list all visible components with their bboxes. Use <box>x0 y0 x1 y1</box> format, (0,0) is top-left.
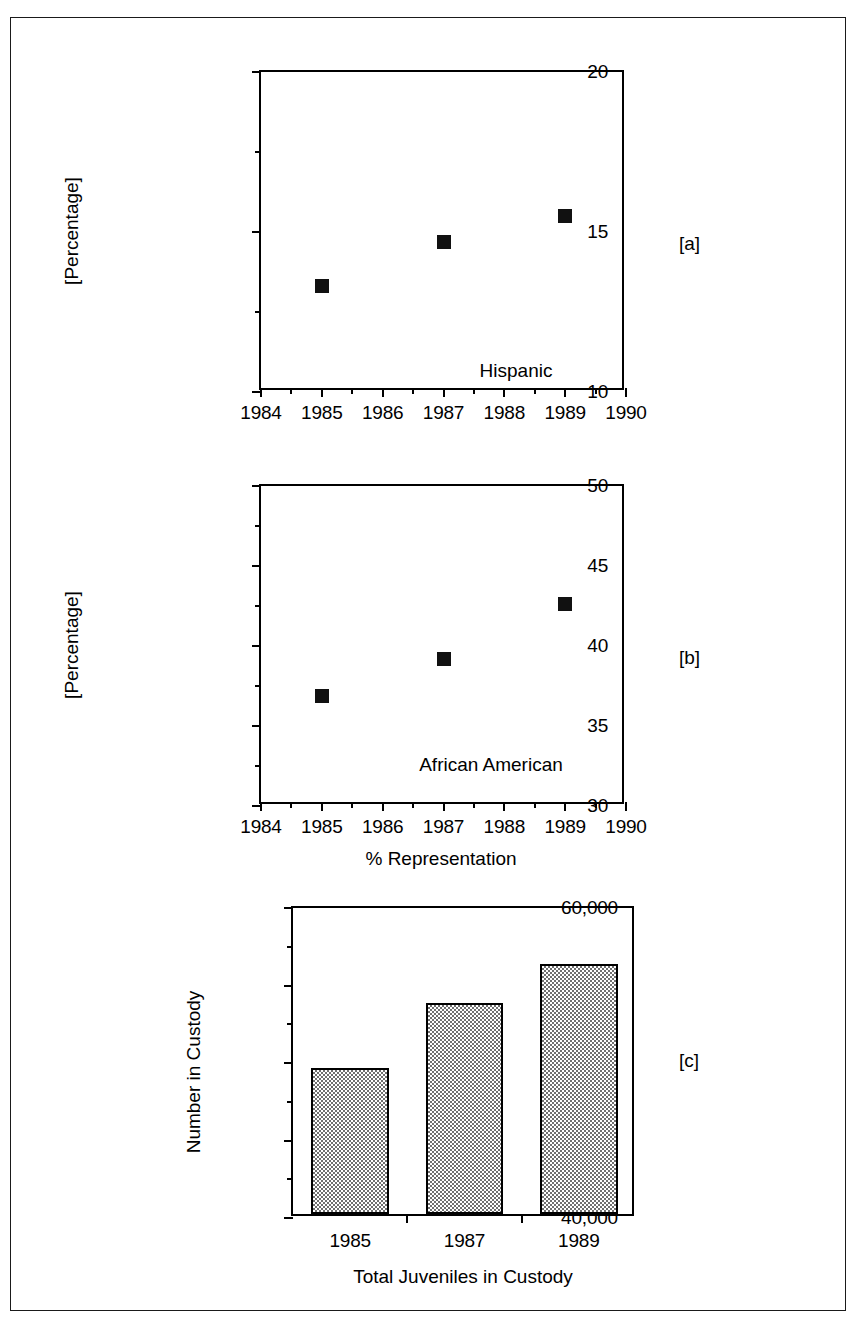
y-tick-label-a: 15 <box>587 221 608 243</box>
y-axis-title-b-text: [Percentage] <box>61 591 82 699</box>
panel-a: 1015201984198519861987198819891990 [Perc… <box>11 18 847 438</box>
x-tick-major-b <box>625 802 627 811</box>
x-tick-label-a: 1989 <box>544 402 585 424</box>
x-tick-label-b: 1986 <box>362 816 403 838</box>
x-tick-minor-b <box>351 802 353 808</box>
x-tick-label-a: 1988 <box>484 402 525 424</box>
bar-c <box>426 1003 504 1214</box>
y-tick-major-b <box>252 725 261 727</box>
x-tick-minor-a <box>412 388 414 394</box>
x-tick-major-c <box>521 1214 523 1223</box>
x-axis-title-c-text: Total Juveniles in Custody <box>353 1266 573 1287</box>
y-tick-minor-c <box>287 1101 293 1103</box>
panel-tag-b-text: [b] <box>679 647 700 668</box>
panel-tag-b: [b] <box>679 647 700 669</box>
y-tick-major-c <box>284 907 293 909</box>
panel-c: 40,00045,00050,00055,00060,0001985198719… <box>11 870 847 1310</box>
panel-tag-c-text: [c] <box>679 1050 699 1071</box>
x-tick-major-b <box>260 802 262 811</box>
panel-tag-a: [a] <box>679 233 700 255</box>
y-tick-label-b: 45 <box>587 555 608 577</box>
x-tick-minor-b <box>534 802 536 808</box>
x-tick-minor-a <box>534 388 536 394</box>
y-axis-title-a: [Percentage] <box>61 131 83 331</box>
x-tick-major-a <box>443 388 445 397</box>
series-annotation-b: African American <box>419 754 563 776</box>
data-point-a <box>315 279 329 293</box>
x-tick-major-b <box>564 802 566 811</box>
x-tick-minor-a <box>290 388 292 394</box>
panel-b: 30354045501984198519861987198819891990 [… <box>11 436 847 866</box>
y-tick-label-b: 40 <box>587 635 608 657</box>
data-point-a <box>558 209 572 223</box>
x-tick-label-a: 1985 <box>301 402 342 424</box>
y-tick-minor-c <box>287 946 293 948</box>
x-tick-label-c: 1985 <box>329 1230 370 1252</box>
x-tick-major-a <box>382 388 384 397</box>
x-tick-minor-a <box>351 388 353 394</box>
x-tick-label-b: 1989 <box>544 816 585 838</box>
x-tick-label-b: 1988 <box>484 816 525 838</box>
x-tick-label-a: 1990 <box>605 402 646 424</box>
y-tick-major-c <box>284 1062 293 1064</box>
x-tick-minor-b <box>412 802 414 808</box>
shared-x-axis-title: % Representation <box>365 848 516 870</box>
y-axis-title-b: [Percentage] <box>61 545 83 745</box>
y-axis-title-c-text: Number in Custody <box>183 991 204 1154</box>
plot-area-c: 40,00045,00050,00055,00060,0001985198719… <box>291 906 634 1216</box>
x-tick-minor-a <box>595 388 597 394</box>
y-tick-major-c <box>284 985 293 987</box>
panel-tag-c: [c] <box>679 1050 699 1072</box>
x-tick-label-a: 1986 <box>362 402 403 424</box>
y-tick-major-c <box>284 1217 293 1219</box>
series-annotation-b-text: African American <box>419 754 563 775</box>
x-tick-minor-b <box>473 802 475 808</box>
y-tick-label-b: 30 <box>587 795 608 817</box>
shared-x-axis-title-text: % Representation <box>365 848 516 869</box>
x-tick-minor-b <box>595 802 597 808</box>
y-tick-minor-a <box>255 311 261 313</box>
y-tick-major-b <box>252 645 261 647</box>
x-tick-label-a: 1987 <box>423 402 464 424</box>
panel-tag-a-text: [a] <box>679 233 700 254</box>
x-tick-major-a <box>503 388 505 397</box>
data-point-b <box>558 597 572 611</box>
x-tick-major-b <box>503 802 505 811</box>
x-tick-minor-b <box>290 802 292 808</box>
x-tick-major-a <box>321 388 323 397</box>
x-tick-label-a: 1984 <box>240 402 281 424</box>
y-tick-minor-b <box>255 525 261 527</box>
y-tick-major-b <box>252 565 261 567</box>
x-tick-major-a <box>564 388 566 397</box>
plot-area-a: 1015201984198519861987198819891990 <box>259 70 624 390</box>
x-axis-title-c: Total Juveniles in Custody <box>353 1266 573 1288</box>
x-tick-label-b: 1984 <box>240 816 281 838</box>
y-tick-minor-b <box>255 605 261 607</box>
y-tick-label-a: 10 <box>587 381 608 403</box>
bar-c <box>311 1068 389 1214</box>
y-tick-minor-c <box>287 1178 293 1180</box>
y-tick-label-b: 35 <box>587 715 608 737</box>
y-tick-label-c: 60,000 <box>561 897 618 919</box>
x-tick-major-a <box>625 388 627 397</box>
x-tick-major-b <box>382 802 384 811</box>
x-tick-label-b: 1990 <box>605 816 646 838</box>
y-tick-minor-b <box>255 685 261 687</box>
y-axis-title-a-text: [Percentage] <box>61 177 82 285</box>
data-point-b <box>315 689 329 703</box>
y-tick-minor-b <box>255 765 261 767</box>
x-tick-major-c <box>406 1214 408 1223</box>
series-annotation-a-text: Hispanic <box>480 360 553 381</box>
x-tick-label-b: 1985 <box>301 816 342 838</box>
y-tick-minor-c <box>287 1023 293 1025</box>
x-tick-major-a <box>260 388 262 397</box>
y-tick-major-a <box>252 71 261 73</box>
series-annotation-a: Hispanic <box>480 360 553 382</box>
data-point-b <box>437 652 451 666</box>
y-tick-minor-a <box>255 151 261 153</box>
x-tick-label-b: 1987 <box>423 816 464 838</box>
x-tick-label-c: 1987 <box>444 1230 485 1252</box>
y-tick-label-a: 20 <box>587 61 608 83</box>
x-tick-major-b <box>321 802 323 811</box>
figure-frame: 1015201984198519861987198819891990 [Perc… <box>10 17 846 1311</box>
